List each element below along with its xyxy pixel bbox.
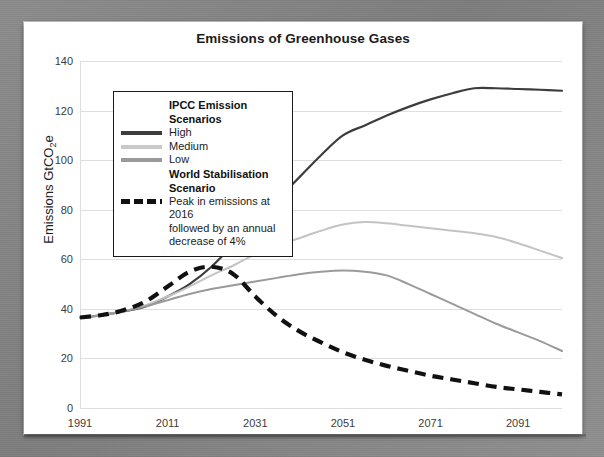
legend-line-swatch-icon — [120, 126, 163, 139]
series-line-peak — [80, 267, 562, 395]
legend-heading-label: World Stabilisation Scenario — [169, 167, 284, 195]
legend-swatch-spacer — [120, 98, 163, 111]
slide-background: Emissions of Greenhouse Gases Emissions … — [0, 0, 604, 457]
y-axis-label: Emissions GtCO2e — [41, 70, 56, 310]
legend-item[interactable]: Medium — [120, 140, 284, 154]
legend-continuation: followed by an annualdecrease of 4% — [120, 222, 284, 249]
y-tick-label: 140 — [55, 55, 73, 67]
y-tick-label: 80 — [61, 204, 73, 216]
legend-items-ipcc: HighMediumLow — [120, 126, 284, 167]
y-tick-label: 100 — [55, 154, 73, 166]
y-tick-label: 60 — [61, 253, 73, 265]
legend-item-label: High — [169, 126, 192, 140]
x-tick-label: 2051 — [331, 417, 355, 429]
legend-group-heading-world: World Stabilisation Scenario — [120, 167, 284, 195]
y-tick-label: 20 — [61, 352, 73, 364]
legend-continuation-line: decrease of 4% — [120, 235, 284, 249]
legend-item-label: Peak in emissions at 2016 — [169, 195, 284, 222]
plot-area: 020406080100120140 199120112031205120712… — [80, 61, 562, 408]
legend-continuation-line: followed by an annual — [120, 222, 284, 236]
chart-legend: IPCC Emission Scenarios HighMediumLow Wo… — [113, 91, 293, 257]
x-tick-label: 2031 — [243, 417, 267, 429]
legend-line-swatch-icon — [120, 140, 163, 153]
series-line-low — [80, 270, 562, 351]
y-axis-label-prefix: Emissions GtCO — [41, 148, 56, 244]
legend-item[interactable]: High — [120, 126, 284, 140]
legend-line-swatch-icon — [120, 153, 163, 166]
legend-item-label: Low — [169, 153, 189, 167]
legend-item[interactable]: Low — [120, 153, 284, 167]
legend-item[interactable]: Peak in emissions at 2016 — [120, 195, 284, 222]
y-axis-label-subscript: 2 — [48, 143, 58, 148]
legend-line-swatch-icon — [120, 195, 163, 208]
legend-swatch-spacer — [120, 167, 163, 180]
gridline — [80, 408, 562, 409]
legend-heading-label: IPCC Emission Scenarios — [169, 98, 284, 126]
chart-page: Emissions of Greenhouse Gases Emissions … — [24, 22, 582, 434]
x-tick-label: 2091 — [506, 417, 530, 429]
legend-item-label: Medium — [169, 140, 208, 154]
x-tick-label: 2011 — [156, 417, 180, 429]
x-tick-label: 2071 — [418, 417, 442, 429]
y-tick-label: 0 — [67, 402, 73, 414]
y-tick-label: 120 — [55, 105, 73, 117]
legend-group-heading-ipcc: IPCC Emission Scenarios — [120, 98, 284, 126]
y-axis-label-suffix: e — [41, 135, 56, 142]
y-tick-label: 40 — [61, 303, 73, 315]
legend-items-world: Peak in emissions at 2016 — [120, 195, 284, 222]
chart-title: Emissions of Greenhouse Gases — [24, 31, 582, 46]
x-tick-label: 1991 — [68, 417, 92, 429]
